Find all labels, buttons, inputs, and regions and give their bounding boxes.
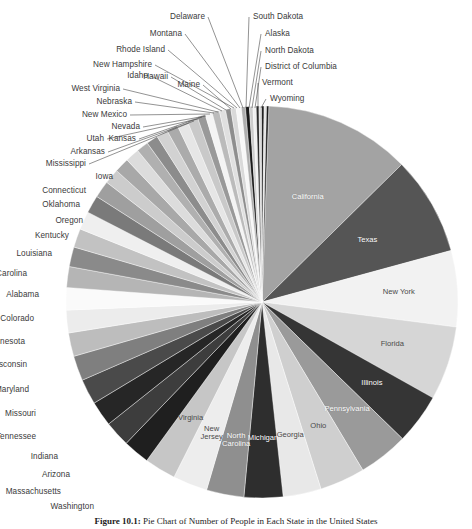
slice-callout-label: Idaho	[127, 71, 148, 80]
leader-line	[123, 89, 218, 112]
slice-callout-label: Maryland	[0, 385, 29, 394]
leader-line	[249, 34, 261, 108]
slice-callout-label: Tennessee	[0, 432, 36, 441]
slice-callout-label: Alabama	[6, 290, 39, 299]
pie-chart-figure: CaliforniaTexasNew YorkFloridaIllinoisPe…	[0, 0, 472, 529]
slice-callout-label: North Dakota	[265, 46, 314, 55]
slice-label: Florida	[350, 340, 434, 348]
slice-callout-label: South Dakota	[253, 12, 303, 21]
slice-label: Illinois	[330, 379, 414, 387]
slice-callout-label: Oklahoma	[42, 200, 80, 209]
slice-label: NewJersey	[170, 425, 254, 442]
slice-callout-label: Connecticut	[42, 186, 86, 195]
slice-callout-label: Vermont	[262, 78, 293, 87]
slice-callout-label: Arkansas	[70, 147, 105, 156]
leader-line	[208, 17, 243, 108]
slice-callout-label: Washington	[51, 502, 94, 511]
slice-callout-label: Wyoming	[270, 94, 304, 103]
slice-callout-label: New Hampshire	[93, 60, 152, 69]
slice-callout-label: South Carolina	[0, 269, 27, 278]
slice-callout-label: District of Columbia	[265, 62, 337, 71]
slice-callout-label: Kansas	[108, 134, 136, 143]
slice-label: Pennsylvania	[305, 405, 389, 413]
slice-label: Virginia	[149, 414, 233, 422]
slice-label: Texas	[325, 236, 409, 244]
slice-callout-label: Wisconsin	[0, 360, 27, 369]
slice-callout-label: Minnesota	[0, 337, 25, 346]
slice-callout-label: Maine	[177, 80, 200, 89]
slice-callout-label: Nebraska	[97, 97, 132, 106]
slice-callout-label: Kentucky	[35, 231, 69, 240]
slice-callout-label: Louisiana	[16, 249, 52, 258]
slice-callout-label: Alaska	[265, 29, 290, 38]
slice-callout-label: Indiana	[31, 452, 58, 461]
slice-label: Ohio	[276, 422, 360, 430]
leader-line	[203, 85, 231, 109]
leader-line	[246, 17, 249, 108]
slice-callout-label: West Virginia	[71, 84, 120, 93]
slice-callout-label: Montana	[150, 29, 182, 38]
slice-callout-label: Missouri	[5, 409, 36, 418]
slice-callout-label: New Mexico	[82, 110, 127, 119]
leader-line	[135, 102, 214, 113]
slice-callout-label: Iowa	[96, 172, 114, 181]
slice-callout-label: Utah	[87, 134, 105, 143]
figure-caption-number: Figure 10.1:	[94, 516, 143, 526]
figure-caption-text: Pie Chart of Number of People in Each St…	[143, 516, 377, 526]
leader-line	[168, 50, 237, 108]
slice-callout-label: Nevada	[111, 122, 140, 131]
slice-callout-label: Mississippi	[46, 159, 86, 168]
figure-caption: Figure 10.1: Pie Chart of Number of Peop…	[0, 516, 472, 526]
slice-callout-label: Arizona	[42, 470, 70, 479]
slice-label: New York	[357, 288, 441, 296]
slice-callout-label: Colorado	[0, 314, 34, 323]
slice-callout-label: Delaware	[170, 12, 205, 21]
pie-chart-svg	[0, 0, 472, 529]
slice-label: California	[266, 193, 350, 201]
slice-callout-label: Oregon	[55, 216, 83, 225]
leader-line	[130, 114, 210, 115]
slice-callout-label: Rhode Island	[116, 45, 165, 54]
slice-callout-label: Massachusetts	[6, 487, 61, 496]
